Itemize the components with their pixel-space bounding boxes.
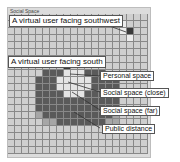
grid-cell <box>43 91 50 98</box>
grid-cell <box>113 56 120 63</box>
grid-cell <box>113 147 120 154</box>
grid-cell <box>64 35 71 42</box>
grid-cell <box>120 49 127 56</box>
grid-cell <box>113 28 120 35</box>
grid-cell <box>85 133 92 140</box>
grid-cell <box>22 91 29 98</box>
grid-cell <box>22 140 29 147</box>
grid-cell <box>92 98 99 105</box>
grid-cell <box>50 84 57 91</box>
grid-cell <box>57 49 64 56</box>
grid-cell <box>57 119 64 126</box>
grid-cell <box>92 70 99 77</box>
grid-cell <box>120 140 127 147</box>
grid-cell <box>78 98 85 105</box>
grid-cell <box>141 42 148 49</box>
grid-cell <box>120 28 127 35</box>
grid-cell <box>127 63 134 70</box>
grid-cell <box>134 147 141 154</box>
grid-cell <box>29 49 36 56</box>
grid-cell <box>134 14 141 21</box>
grid-cell <box>120 56 127 63</box>
grid-cell <box>36 91 43 98</box>
label-user-southwest: A virtual user facing southwest <box>9 15 123 27</box>
grid-cell <box>8 133 15 140</box>
grid-cell <box>22 70 29 77</box>
grid-cell <box>64 105 71 112</box>
grid-cell <box>36 84 43 91</box>
grid-cell <box>64 70 71 77</box>
grid-cell <box>43 112 50 119</box>
grid-cell <box>134 28 141 35</box>
grid-cell <box>85 98 92 105</box>
grid-cell <box>50 98 57 105</box>
grid-cell <box>57 70 64 77</box>
grid-cell <box>127 140 134 147</box>
grid-cell <box>85 91 92 98</box>
grid-cell <box>8 49 15 56</box>
grid-cell <box>29 112 36 119</box>
grid-cell <box>71 91 78 98</box>
grid-cell <box>64 147 71 154</box>
grid-cell <box>141 56 148 63</box>
grid-cell <box>22 84 29 91</box>
grid-cell <box>64 91 71 98</box>
grid-cell <box>15 35 22 42</box>
grid-cell <box>57 91 64 98</box>
grid-cell <box>78 105 85 112</box>
grid-cell <box>43 105 50 112</box>
grid-cell <box>29 98 36 105</box>
grid-cell <box>127 133 134 140</box>
grid-cell <box>64 119 71 126</box>
grid-cell <box>15 42 22 49</box>
grid-cell <box>50 147 57 154</box>
grid-cell <box>22 105 29 112</box>
grid-cell <box>15 105 22 112</box>
grid-cell <box>134 49 141 56</box>
grid-cell <box>127 28 134 35</box>
grid-cell <box>106 28 113 35</box>
grid-cell <box>64 77 71 84</box>
grid-cell <box>8 42 15 49</box>
grid-cell <box>8 119 15 126</box>
grid-cell <box>57 42 64 49</box>
grid-cell <box>99 28 106 35</box>
grid-cell <box>78 91 85 98</box>
grid-cell <box>29 28 36 35</box>
grid-cell <box>22 147 29 154</box>
grid-cell <box>15 119 22 126</box>
grid-cell <box>113 98 120 105</box>
grid-cell <box>43 42 50 49</box>
grid-cell <box>22 42 29 49</box>
grid-cell <box>85 28 92 35</box>
grid-cell <box>8 126 15 133</box>
grid-cell <box>8 28 15 35</box>
grid-cell <box>141 28 148 35</box>
grid-cell <box>120 63 127 70</box>
grid-cell <box>50 70 57 77</box>
grid-cell <box>85 105 92 112</box>
grid-cell <box>50 91 57 98</box>
grid-cell <box>85 119 92 126</box>
grid-cell <box>29 126 36 133</box>
grid-cell <box>92 49 99 56</box>
grid-cell <box>15 98 22 105</box>
grid-cell <box>43 77 50 84</box>
grid-cell <box>43 84 50 91</box>
grid-cell <box>57 147 64 154</box>
grid-cell <box>78 112 85 119</box>
grid-cell <box>120 42 127 49</box>
grid-cell <box>92 84 99 91</box>
grid-cell <box>8 140 15 147</box>
grid-cell <box>71 140 78 147</box>
grid-cell <box>71 98 78 105</box>
grid-cell <box>36 105 43 112</box>
grid-cell <box>50 112 57 119</box>
grid-cell <box>85 35 92 42</box>
grid-cell <box>43 140 50 147</box>
grid-cell <box>99 147 106 154</box>
grid-cell <box>127 56 134 63</box>
grid-cell <box>8 105 15 112</box>
grid-cell <box>50 28 57 35</box>
grid-cell <box>15 133 22 140</box>
